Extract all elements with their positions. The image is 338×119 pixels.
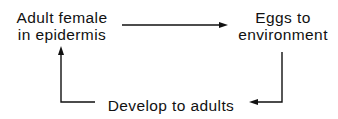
arrowhead-up-icon: [58, 46, 64, 55]
arrowhead-right-icon: [219, 22, 228, 28]
edges-layer: [0, 0, 338, 119]
arrowhead-left-icon: [249, 99, 258, 105]
arrow-eggs-to-develop: [249, 52, 282, 105]
arrow-adult-to-eggs: [122, 22, 228, 28]
arrow-develop-to-adult: [58, 46, 95, 102]
